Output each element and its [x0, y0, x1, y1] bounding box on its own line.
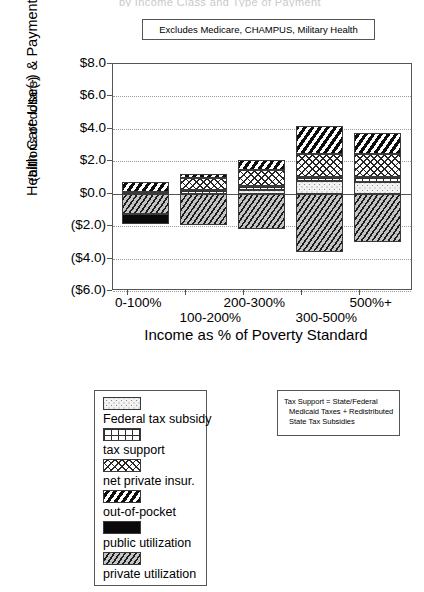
bar-segment[interactable] — [238, 160, 285, 171]
x-axis-tick-label: 0-100% — [115, 295, 162, 310]
bar-segment[interactable] — [180, 178, 227, 189]
y-axis-tick-mark — [107, 160, 112, 161]
bar-segment[interactable] — [296, 154, 343, 177]
y-axis-tick-mark — [107, 290, 112, 291]
chart-legend: Federal tax subsidytax supportnet privat… — [94, 390, 207, 586]
x-axis-tick-label: 100-200% — [180, 310, 242, 325]
legend-swatch-net_private_insurance — [103, 459, 141, 472]
x-axis-tick-label: 200-300% — [224, 295, 286, 310]
y-axis-tick-label: ($2.0) — [50, 217, 106, 232]
bar-segment[interactable] — [296, 126, 343, 154]
y-axis-tick-label: $6.0 — [50, 87, 106, 102]
tax-support-note-box: Tax Support = State/Federal Medicaid Tax… — [277, 390, 400, 436]
excludes-note-box: Excludes Medicare, CHAMPUS, Military Hea… — [142, 19, 375, 40]
bar-group[interactable] — [238, 64, 285, 291]
legend-label-out_of_pocket: out-of-pocket — [103, 505, 176, 519]
legend-swatch-out_of_pocket — [103, 490, 141, 503]
y-axis-tick-mark — [107, 95, 112, 96]
legend-label-private_utilization: private utilization — [103, 567, 196, 581]
note-line-2: Medicaid Taxes + Redistributed — [284, 407, 394, 417]
x-axis-title: Income as % of Poverty Standard — [96, 326, 416, 343]
chart-plot-area — [112, 63, 412, 290]
x-axis-tick-label: 300-500% — [296, 310, 358, 325]
bar-segment[interactable] — [296, 177, 343, 181]
bar-segment[interactable] — [296, 181, 343, 194]
legend-label-public_utilization: public utilization — [103, 536, 191, 550]
legend-swatch-federal_tax_subsidy — [103, 397, 141, 410]
y-axis-tick-mark — [107, 128, 112, 129]
y-axis-title-subunits: (billions of dollars) — [25, 34, 43, 224]
x-axis-tick-mark — [301, 290, 302, 295]
y-axis-tick-label: $2.0 — [50, 152, 106, 167]
bar-segment[interactable] — [354, 133, 401, 154]
note-line-3: State Tax Subsidies — [284, 417, 394, 427]
bar-segment[interactable] — [180, 174, 227, 178]
bar-segment[interactable] — [296, 194, 343, 252]
y-axis-tick-label: $0.0 — [50, 185, 106, 200]
x-axis-tick-mark — [185, 290, 186, 295]
y-axis-tick-label: ($4.0) — [50, 250, 106, 265]
bar-segment[interactable] — [238, 170, 285, 186]
bar-segment[interactable] — [180, 194, 227, 225]
bar-group[interactable] — [354, 64, 401, 291]
legend-swatch-public_utilization — [103, 521, 141, 534]
bar-segment[interactable] — [238, 186, 285, 189]
x-axis-tick-label: 500%+ — [350, 295, 392, 310]
bar-segment[interactable] — [354, 182, 401, 194]
bar-segment[interactable] — [122, 214, 169, 224]
legend-label-tax_support: tax support — [103, 443, 165, 457]
legend-swatch-tax_support — [103, 428, 141, 441]
bar-segment[interactable] — [122, 182, 169, 192]
y-axis-tick-mark — [107, 225, 112, 226]
bar-group[interactable] — [180, 64, 227, 291]
bar-segment[interactable] — [354, 194, 401, 243]
bar-segment[interactable] — [238, 194, 285, 230]
note-line-1: Tax Support = State/Federal — [284, 397, 394, 407]
y-axis-tick-mark — [107, 63, 112, 64]
y-axis-tick-label: $4.0 — [50, 120, 106, 135]
page-super-title: by Income Class and Type of Payment — [70, 0, 370, 7]
bar-group[interactable] — [122, 64, 169, 291]
y-axis-tick-mark — [107, 258, 112, 259]
bar-group[interactable] — [296, 64, 343, 291]
bar-segment[interactable] — [354, 177, 401, 182]
legend-swatch-private_utilization — [103, 552, 141, 565]
bar-segment[interactable] — [354, 154, 401, 177]
bar-segment[interactable] — [122, 194, 169, 214]
y-axis-tick-label: ($6.0) — [50, 282, 106, 297]
y-axis-tick-label: $8.0 — [50, 55, 106, 70]
y-axis-tick-mark — [107, 193, 112, 194]
legend-label-federal_tax_subsidy: Federal tax subsidy — [103, 412, 211, 426]
legend-label-net_private_insurance: net private insur. — [103, 474, 195, 488]
gridline — [113, 291, 411, 292]
